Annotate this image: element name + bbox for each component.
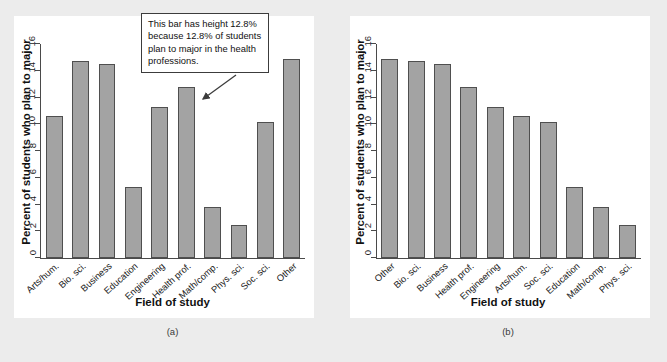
- chart-panel-b: Percent of students who plan to major 02…: [334, 0, 667, 362]
- y-tick-label-0: 0: [27, 258, 38, 263]
- y-tick-label-6: 6: [362, 177, 373, 182]
- y-tick-16: 16: [371, 43, 376, 44]
- bar-slot: Business: [94, 44, 120, 258]
- bar[interactable]: [204, 207, 221, 258]
- y-tick-12: 12: [371, 97, 376, 98]
- bar[interactable]: [99, 64, 116, 258]
- y-tick-label-12: 12: [362, 97, 373, 108]
- y-tick-0: 0: [371, 257, 376, 258]
- bar-slot: Business: [429, 44, 455, 258]
- bar-slot: Soc. sci.: [252, 44, 278, 258]
- plot-area-b: 0246810121416 OtherBio. sci.BusinessHeal…: [376, 44, 641, 259]
- y-tick-label-2: 2: [362, 231, 373, 236]
- bar[interactable]: [381, 59, 398, 258]
- y-tick-6: 6: [35, 177, 40, 178]
- bar[interactable]: [125, 187, 142, 258]
- y-tick-label-12: 12: [27, 97, 38, 108]
- y-tick-label-10: 10: [27, 124, 38, 135]
- bar-slot: Health prof.: [173, 44, 199, 258]
- bar-group-b: OtherBio. sci.BusinessHealth prof.Engine…: [377, 44, 641, 258]
- bar[interactable]: [283, 59, 300, 258]
- bar[interactable]: [434, 64, 451, 258]
- bar-slot: Other: [279, 44, 305, 258]
- x-axis-title-b: Field of study: [376, 296, 641, 308]
- y-tick-0: 0: [35, 257, 40, 258]
- bar-slot: Soc. sci.: [535, 44, 561, 258]
- chart-panel-a: Percent of students who plan to major 02…: [0, 0, 334, 362]
- bar-slot: Arts/hum.: [41, 44, 67, 258]
- y-tick-label-16: 16: [27, 44, 38, 55]
- bar-slot: Math/comp.: [199, 44, 225, 258]
- bar[interactable]: [408, 61, 425, 258]
- bar-slot: Health prof.: [456, 44, 482, 258]
- y-tick-label-2: 2: [27, 231, 38, 236]
- bar-slot: Other: [377, 44, 403, 258]
- bar[interactable]: [540, 122, 557, 258]
- x-axis-title-a: Field of study: [40, 296, 305, 308]
- y-tick-8: 8: [371, 150, 376, 151]
- x-axis-line-b: [376, 258, 641, 259]
- y-tick-14: 14: [35, 70, 40, 71]
- y-tick-label-14: 14: [362, 70, 373, 81]
- y-tick-2: 2: [35, 230, 40, 231]
- y-tick-16: 16: [35, 43, 40, 44]
- annotation-callout: This bar has height 12.8% because 12.8% …: [141, 13, 269, 73]
- x-axis-line-a: [40, 258, 305, 259]
- y-tick-10: 10: [371, 123, 376, 124]
- y-tick-label-6: 6: [27, 177, 38, 182]
- y-tick-14: 14: [371, 70, 376, 71]
- y-tick-4: 4: [35, 204, 40, 205]
- bar[interactable]: [619, 225, 636, 258]
- bar[interactable]: [151, 107, 168, 258]
- y-tick-label-8: 8: [27, 151, 38, 156]
- bar-slot: Bio. sci.: [67, 44, 93, 258]
- bar[interactable]: [513, 116, 530, 258]
- bar[interactable]: [593, 207, 610, 258]
- figure-container: Percent of students who plan to major 02…: [0, 0, 667, 362]
- panel-caption-b: (b): [376, 326, 641, 337]
- plot-area-a: 0246810121416 Arts/hum.Bio. sci.Business…: [40, 44, 305, 259]
- bar[interactable]: [178, 87, 195, 258]
- y-tick-label-0: 0: [362, 258, 373, 263]
- y-tick-2: 2: [371, 230, 376, 231]
- y-tick-10: 10: [35, 123, 40, 124]
- y-tick-label-4: 4: [362, 204, 373, 209]
- y-tick-8: 8: [35, 150, 40, 151]
- bar-slot: Arts/hum.: [509, 44, 535, 258]
- bar[interactable]: [257, 122, 274, 258]
- y-tick-6: 6: [371, 177, 376, 178]
- bar-slot: Engineering: [482, 44, 508, 258]
- bar-slot: Phys. sci.: [614, 44, 640, 258]
- bar[interactable]: [566, 187, 583, 258]
- bar-slot: Phys. sci.: [226, 44, 252, 258]
- bar-slot: Engineering: [147, 44, 173, 258]
- bar-group-a: Arts/hum.Bio. sci.BusinessEducationEngin…: [41, 44, 305, 258]
- y-tick-label-16: 16: [362, 44, 373, 55]
- bar-slot: Education: [561, 44, 587, 258]
- bar[interactable]: [487, 107, 504, 258]
- panel-caption-a: (a): [40, 326, 305, 337]
- bar[interactable]: [72, 61, 89, 258]
- bar-slot: Education: [120, 44, 146, 258]
- y-tick-label-14: 14: [27, 70, 38, 81]
- bar[interactable]: [46, 116, 63, 258]
- y-tick-label-8: 8: [362, 151, 373, 156]
- bar-slot: Bio. sci.: [403, 44, 429, 258]
- y-tick-4: 4: [371, 204, 376, 205]
- y-tick-label-4: 4: [27, 204, 38, 209]
- bar[interactable]: [460, 87, 477, 258]
- bar[interactable]: [231, 225, 248, 258]
- y-tick-12: 12: [35, 97, 40, 98]
- bar-slot: Math/comp.: [588, 44, 614, 258]
- y-tick-label-10: 10: [362, 124, 373, 135]
